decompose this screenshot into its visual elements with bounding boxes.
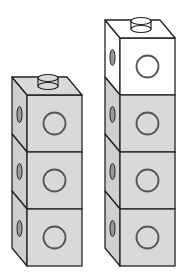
connector-nub-bottom (38, 83, 58, 90)
cube-front-hole (44, 227, 66, 249)
cube-side-hole (17, 221, 22, 237)
cube-front-hole (44, 170, 66, 192)
cube (105, 18, 175, 96)
cube-front-hole (137, 170, 159, 192)
cube-front-hole (137, 56, 159, 78)
connector-nub-top (131, 18, 151, 25)
cube-side-hole (110, 50, 115, 66)
cube-side-hole (17, 107, 22, 123)
cube-side-hole (110, 107, 115, 123)
cube-side-hole (17, 164, 22, 180)
cube-front-hole (137, 227, 159, 249)
connector-nub-top (38, 75, 58, 82)
cube-stacks-diagram (0, 0, 186, 280)
cube-side-hole (110, 164, 115, 180)
left-stack (12, 75, 82, 267)
cube-front-hole (137, 113, 159, 135)
cube (12, 75, 82, 153)
cube-front-hole (44, 113, 66, 135)
connector-nub-bottom (131, 26, 151, 33)
cube-side-hole (110, 221, 115, 237)
right-stack (105, 18, 175, 267)
